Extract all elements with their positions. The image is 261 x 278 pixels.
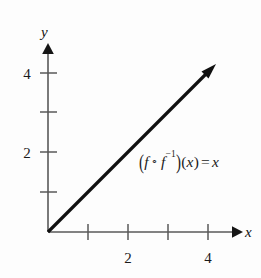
inverse-exponent: −1 <box>165 149 176 159</box>
composition-symbol: ∘ <box>149 155 161 167</box>
y-axis-label: y <box>41 25 48 40</box>
equation-close-paren: ) <box>176 150 181 175</box>
equation-argument: x <box>187 153 194 170</box>
y-tick-label-4: 4 <box>23 67 31 82</box>
equals-sign: = <box>199 153 212 170</box>
equation-result: x <box>212 153 219 170</box>
equation-open-paren: ( <box>139 150 144 175</box>
graph-figure: y x 4 2 2 4 (f∘f−1)(x)=x <box>0 0 261 278</box>
x-axis-arrowhead <box>232 226 243 238</box>
x-tick-label-4: 4 <box>204 251 212 266</box>
y-axis-arrowhead <box>42 43 54 54</box>
equation-annotation: (f∘f−1)(x)=x <box>139 153 219 171</box>
x-axis-label: x <box>245 225 252 240</box>
graph-canvas <box>0 0 261 278</box>
identity-line <box>48 72 208 232</box>
y-tick-label-2: 2 <box>23 146 31 161</box>
x-tick-label-2: 2 <box>124 251 132 266</box>
